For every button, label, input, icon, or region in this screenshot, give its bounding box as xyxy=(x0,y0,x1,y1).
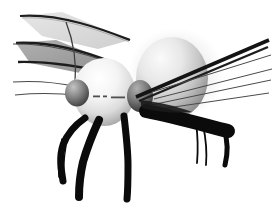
insect-render-canvas xyxy=(0,0,273,210)
insect-illustration xyxy=(0,0,273,210)
left-eye-sphere xyxy=(65,80,89,107)
